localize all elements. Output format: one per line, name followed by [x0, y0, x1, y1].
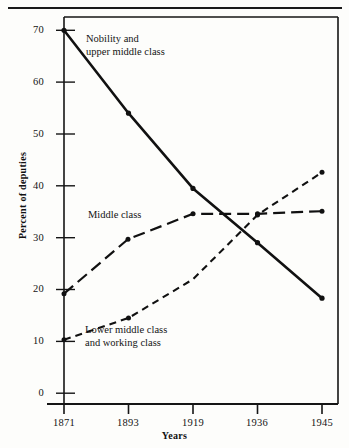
series-nobility-line: [64, 30, 322, 298]
x-axis-ticks: [64, 404, 322, 414]
x-tick-label-1919: 1919: [171, 417, 215, 428]
series-lower-working-class: [62, 170, 325, 342]
annotation-nobility-line2: upper middle class: [86, 45, 165, 58]
annotation-lower-line1: Lower middle class: [85, 324, 167, 335]
annotation-lower-line2: and working class: [85, 336, 167, 349]
x-tick-label-1945: 1945: [300, 417, 344, 428]
series-nobility-markers: [61, 28, 324, 301]
series-lower-working-class-line: [64, 172, 322, 339]
x-axis-title: Years: [0, 430, 349, 441]
annotation-nobility-line1: Nobility and: [86, 33, 139, 44]
series-middle-class-line: [64, 211, 322, 294]
series-middle-class-markers: [62, 209, 325, 297]
annotation-middle-class: Middle class: [88, 208, 141, 221]
y-axis-title: Percent of deputies: [17, 136, 28, 256]
y-tick-label-60: 60: [20, 76, 44, 87]
chart-figure: 0 10 20 30 40 50 60 70 1871 1893 1919 19…: [0, 0, 349, 448]
x-tick-label-1871: 1871: [42, 417, 86, 428]
chart-plot-area: [0, 0, 349, 448]
y-tick-label-10: 10: [20, 335, 44, 346]
series-middle-class: [62, 209, 325, 297]
series-nobility: [61, 28, 324, 301]
y-tick-label-0: 0: [20, 387, 44, 398]
y-tick-label-70: 70: [20, 24, 44, 35]
x-tick-label-1893: 1893: [106, 417, 150, 428]
annotation-lower-working-class: Lower middle class and working class: [85, 323, 167, 349]
annotation-nobility: Nobility and upper middle class: [86, 32, 165, 58]
annotation-middle-class-line1: Middle class: [88, 209, 141, 220]
x-tick-label-1936: 1936: [235, 417, 279, 428]
y-tick-label-20: 20: [20, 283, 44, 294]
